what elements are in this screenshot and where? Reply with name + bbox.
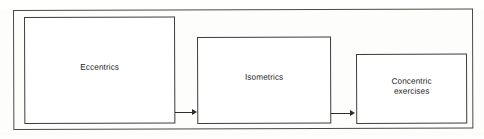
- process-box-eccentrics-label: Eccentrics: [80, 63, 119, 74]
- process-box-concentric-exercises[interactable]: Concentric exercises: [356, 54, 467, 124]
- process-box-concentric-exercises-label: Concentric exercises: [392, 76, 432, 97]
- process-box-isometrics[interactable]: Isometrics: [197, 37, 331, 124]
- process-box-isometrics-label: Isometrics: [245, 73, 283, 84]
- scan-margin-top: [0, 0, 484, 9]
- process-box-eccentrics[interactable]: Eccentrics: [24, 16, 175, 124]
- arrow-shaft: [175, 112, 193, 113]
- arrow-shaft: [331, 113, 351, 114]
- arrow-isometrics-to-concentric: [331, 109, 357, 118]
- scan-margin-bottom: [0, 133, 484, 139]
- arrow-head-icon: [192, 109, 197, 115]
- diagram-canvas: Eccentrics Isometrics Concentric exercis…: [0, 0, 484, 139]
- arrow-eccentrics-to-isometrics: [175, 108, 198, 117]
- arrow-head-icon: [350, 110, 355, 116]
